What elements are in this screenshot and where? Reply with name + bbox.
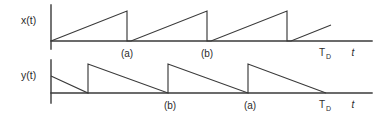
y-panel-td-subscript: D — [326, 105, 331, 112]
y-panel-axis-label-t: t — [352, 99, 356, 110]
panel-x-t: x(t) (a) (b) T D t — [21, 5, 372, 60]
y-t-waveform — [51, 64, 326, 93]
y-panel-marker-b: (b) — [164, 100, 176, 111]
x-t-waveform — [51, 11, 331, 41]
x-panel-axis-label-t: t — [352, 47, 356, 58]
x-panel-marker-b: (b) — [201, 48, 213, 59]
x-panel-td-subscript: D — [326, 53, 331, 60]
y-panel-td-base: T — [319, 99, 325, 110]
y-panel-td-label: T D — [319, 99, 331, 112]
x-panel-td-base: T — [319, 47, 325, 58]
x-panel-td-label: T D — [319, 47, 331, 60]
waveform-figure: x(t) (a) (b) T D t y(t) (b) — [0, 0, 385, 120]
x-panel-signal-label: x(t) — [21, 14, 36, 26]
y-panel-signal-label: y(t) — [21, 69, 36, 81]
waveform-svg: x(t) (a) (b) T D t y(t) (b) — [0, 0, 385, 120]
x-panel-marker-a: (a) — [121, 48, 133, 59]
panel-y-t: y(t) (b) (a) T D t — [21, 60, 372, 112]
y-panel-marker-a: (a) — [244, 100, 256, 111]
